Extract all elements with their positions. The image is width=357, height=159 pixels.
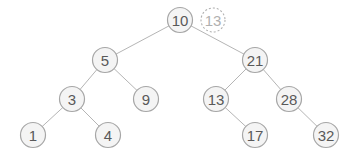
- node-label: 5: [101, 52, 109, 69]
- edge-13-17: [225, 107, 246, 126]
- tree-node-5: 5: [93, 48, 118, 73]
- tree-node-1: 1: [21, 123, 46, 148]
- tree-node-9: 9: [134, 87, 159, 112]
- edge-10-5: [116, 26, 169, 54]
- tree-node-17: 17: [243, 123, 268, 148]
- node-label: 1: [29, 127, 37, 144]
- tree-node-4: 4: [96, 123, 121, 148]
- node-label: 32: [318, 127, 335, 144]
- node-label: 9: [142, 91, 150, 108]
- node-label: 10: [172, 12, 189, 29]
- node-label: 17: [247, 127, 264, 144]
- edge-21-28: [263, 69, 281, 89]
- edge-5-3: [80, 70, 97, 90]
- tree-node-13: 13: [204, 87, 229, 112]
- tree-node-28: 28: [277, 87, 302, 112]
- ghost-node-group: 13: [201, 8, 225, 32]
- edge-3-1: [42, 107, 63, 126]
- ghost-node-label: 13: [205, 12, 222, 29]
- tree-nodes: 10521391328141732: [21, 8, 339, 148]
- edge-5-9: [114, 69, 137, 91]
- tree-node-21: 21: [243, 48, 268, 73]
- tree-node-32: 32: [314, 123, 339, 148]
- edge-21-13: [225, 69, 246, 90]
- tree-edges: [42, 26, 317, 127]
- tree-diagram: 10521391328141732 13: [0, 0, 357, 159]
- ghost-node-13: 13: [201, 8, 225, 32]
- node-label: 3: [68, 91, 76, 108]
- node-label: 28: [281, 91, 298, 108]
- tree-node-10: 10: [168, 8, 193, 33]
- edge-28-32: [298, 108, 317, 127]
- edge-3-4: [81, 108, 99, 126]
- node-label: 21: [247, 52, 264, 69]
- node-label: 4: [104, 127, 112, 144]
- node-label: 13: [208, 91, 225, 108]
- tree-node-3: 3: [60, 87, 85, 112]
